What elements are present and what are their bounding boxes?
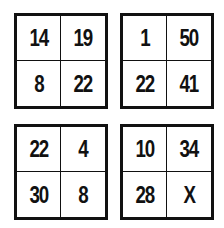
- cell-value: 34: [180, 135, 198, 163]
- cell-top-right: 34: [167, 127, 211, 172]
- cell-top-left: 1: [123, 16, 167, 61]
- cell-value: 22: [29, 135, 47, 163]
- cell-bottom-left: 30: [17, 172, 61, 217]
- cell-top-left: 10: [123, 127, 167, 172]
- cell-value: 1: [140, 24, 149, 52]
- puzzle-box-bottom-left: 22 4 30 8: [14, 124, 108, 220]
- cell-value: 50: [180, 24, 198, 52]
- cell-top-right: 4: [61, 127, 105, 172]
- cell-bottom-right: 22: [61, 61, 105, 106]
- cell-value: 22: [74, 70, 92, 98]
- cell-top-left: 14: [17, 16, 61, 61]
- cell-bottom-left: 22: [123, 61, 167, 106]
- cell-value: 30: [29, 181, 47, 209]
- unknown-value: X: [183, 181, 194, 209]
- cell-value: 22: [135, 70, 153, 98]
- cell-value: 10: [135, 135, 153, 163]
- cell-top-right: 50: [167, 16, 211, 61]
- cell-unknown-x: X: [167, 172, 211, 217]
- cell-value: 19: [74, 24, 92, 52]
- cell-bottom-right: 8: [61, 172, 105, 217]
- cell-value: 41: [180, 70, 198, 98]
- cell-value: 4: [78, 135, 87, 163]
- cell-value: 28: [135, 181, 153, 209]
- cell-top-left: 22: [17, 127, 61, 172]
- cell-bottom-left: 28: [123, 172, 167, 217]
- cell-bottom-right: 41: [167, 61, 211, 106]
- puzzle-box-top-right: 1 50 22 41: [120, 13, 214, 109]
- puzzle-box-top-left: 14 19 8 22: [14, 13, 108, 109]
- cell-bottom-left: 8: [17, 61, 61, 106]
- cell-value: 8: [78, 181, 87, 209]
- cell-top-right: 19: [61, 16, 105, 61]
- puzzle-box-bottom-right: 10 34 28 X: [120, 124, 214, 220]
- cell-value: 8: [34, 70, 43, 98]
- cell-value: 14: [29, 24, 47, 52]
